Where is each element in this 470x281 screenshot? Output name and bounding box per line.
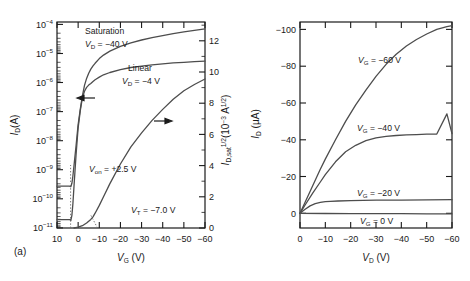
svg-text:−60: −60 [197,234,212,244]
svg-text:0: 0 [76,234,81,244]
svg-text:10−4: 10−4 [36,18,54,30]
y-axis-right-ticks-a [199,41,205,228]
svg-text:−10: −10 [318,234,333,244]
svg-text:−60: −60 [444,234,459,244]
svg-text:0: 0 [209,223,214,233]
svg-text:−30: −30 [368,234,383,244]
svg-text:−20: −20 [113,234,128,244]
svg-text:10−7: 10−7 [36,105,54,117]
svg-text:10−8: 10−8 [36,134,54,146]
svg-text:VG = −60 V: VG = −60 V [358,55,401,66]
svg-text:0: 0 [297,234,302,244]
vt-annotation: VT = −7.0 V [131,205,176,216]
svg-text:10−6: 10−6 [36,76,54,88]
y-axis-right-tick-labels-a: 0 2 4 6 8 10 12 [209,36,219,233]
svg-text:Von = +2.5 V: Von = +2.5 V [89,164,137,175]
x-axis-ticks-a [57,22,205,228]
y-axis-tick-labels-b: −100 −80 −60 −40 −20 0 [276,25,296,219]
svg-text:ID,sat1/2(10−3 A1/2): ID,sat1/2(10−3 A1/2) [220,95,233,166]
svg-text:VG = −40 V: VG = −40 V [357,123,400,134]
svg-text:−40: −40 [155,234,170,244]
svg-text:8: 8 [209,98,214,108]
vg-20-label: VG = −20 V [357,188,400,199]
y-axis-left-tick-labels-a: 10−4 10−5 10−6 10−7 10−8 10−9 10−10 10−1… [32,18,53,233]
vg-0-label: VG = 0 V [360,216,394,227]
svg-text:10−11: 10−11 [33,221,54,233]
svg-text:4: 4 [209,161,214,171]
x-axis-title-a: VG (V) [117,252,145,264]
svg-text:VD (V): VD (V) [362,252,390,264]
svg-text:−40: −40 [394,234,409,244]
curve-vg-0 [300,213,452,214]
panel-a: 10−4 10−5 10−6 10−7 10−8 10−9 10−10 10−1… [0,0,235,281]
x-axis-tick-labels-a: 10 0 −10 −20 −30 −40 −50 −60 [52,234,213,244]
curve-vg-60 [300,26,452,214]
svg-text:−40: −40 [281,135,296,145]
svg-text:10−9: 10−9 [36,163,54,175]
panel-a-caption: (a) [14,246,26,257]
svg-text:ID(A): ID(A) [9,115,21,136]
svg-text:−20: −20 [343,234,358,244]
linear-annotation: Linear VD = −4 V [122,63,160,87]
plot-frame-a [57,22,205,228]
svg-text:10−10: 10−10 [32,192,53,204]
svg-text:Saturation: Saturation [85,26,124,36]
svg-text:VD = −40 V: VD = −40 V [85,39,128,50]
vg-40-label: VG = −40 V [357,123,400,134]
svg-text:−10: −10 [92,234,107,244]
curve-sqrt-idsat [74,79,205,228]
svg-text:−80: −80 [281,61,296,71]
svg-text:−100: −100 [276,25,296,35]
panel-a-plot: 10−4 10−5 10−6 10−7 10−8 10−9 10−10 10−1… [0,0,235,281]
y-axis-left-title-a: ID(A) [9,115,21,136]
svg-text:−60: −60 [281,98,296,108]
svg-text:10: 10 [209,67,219,77]
y-axis-right-title-a: ID,sat1/2(10−3 A1/2) [220,95,233,166]
svg-text:−20: −20 [281,172,296,182]
svg-text:ID (µA): ID (µA) [250,109,262,138]
svg-text:10: 10 [52,234,62,244]
left-axis-arrow [77,95,95,100]
vg-60-label: VG = −60 V [358,55,401,66]
x-axis-title-b: VD (V) [362,252,390,264]
saturation-annotation: Saturation VD = −40 V [85,26,128,50]
svg-text:6: 6 [209,130,214,140]
x-axis-tick-labels-b: 0 −10 −20 −30 −40 −50 −60 [297,234,459,244]
svg-text:−50: −50 [176,234,191,244]
von-annotation: Von = +2.5 V [89,164,137,175]
svg-text:10−5: 10−5 [36,47,54,59]
svg-text:Linear: Linear [128,63,152,73]
figure-container: 10−4 10−5 10−6 10−7 10−8 10−9 10−10 10−1… [0,0,470,281]
panel-b: −100 −80 −60 −40 −20 0 ID (µA) [235,0,470,281]
svg-text:2: 2 [209,192,214,202]
panel-b-plot: −100 −80 −60 −40 −20 0 ID (µA) [235,0,470,281]
right-axis-arrow [154,118,172,123]
svg-text:VD = −4 V: VD = −4 V [122,76,160,87]
curve-vg-20 [300,200,452,214]
svg-text:12: 12 [209,36,219,46]
svg-text:VG (V): VG (V) [117,252,145,264]
svg-text:−50: −50 [419,234,434,244]
svg-text:VG = 0 V: VG = 0 V [360,216,394,227]
y-axis-title-b: ID (µA) [250,109,262,138]
svg-text:−30: −30 [134,234,149,244]
svg-text:0: 0 [291,209,296,219]
svg-text:VT = −7.0 V: VT = −7.0 V [131,205,176,216]
svg-text:VG = −20 V: VG = −20 V [357,188,400,199]
